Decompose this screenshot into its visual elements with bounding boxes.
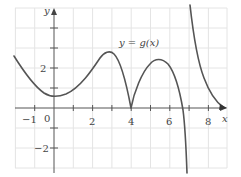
x-tick-label: 8 (205, 116, 211, 127)
graph-of-g: −1 0 2 4 6 8 2 −2 y x y = g(x) (0, 0, 241, 177)
y-axis-label: y (43, 5, 50, 16)
x-tick-label: 2 (89, 116, 95, 127)
x-tick-label: 4 (128, 116, 134, 127)
x-tick-label: 6 (166, 116, 172, 127)
y-tick-label: −2 (34, 143, 49, 154)
x-tick-label: −1 (22, 114, 37, 125)
x-tick-label: 0 (44, 113, 50, 124)
y-axis-arrow-icon (51, 8, 57, 15)
curve-label: y = g(x) (118, 37, 159, 48)
g-curve-right-branch (190, 5, 223, 107)
y-tick-label: 2 (40, 63, 46, 74)
x-axis-label: x (222, 113, 228, 124)
